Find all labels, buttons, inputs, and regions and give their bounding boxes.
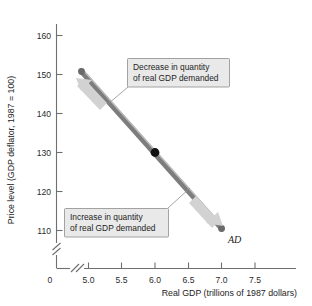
ad-curve-figure: 160 150 140 130 120 110 0 5.0 5.5 6.0 6.…: [0, 0, 312, 306]
y-tick-label-160: 160: [37, 31, 52, 41]
x-axis: [57, 264, 297, 272]
origin-label: 0: [48, 275, 53, 285]
increase-callout-line1: Increase in quantity: [70, 212, 143, 222]
arrow-down-right-icon: [189, 196, 223, 228]
ad-curve-bottom-endpoint: [218, 225, 225, 232]
y-axis-title: Price level (GDP deflator, 1987 = 100): [6, 76, 16, 224]
x-tick-label-5-5: 5.5: [116, 275, 128, 285]
x-axis-ticks: [89, 263, 256, 269]
ad-series-label: AD: [227, 234, 242, 245]
y-tick-label-120: 120: [37, 187, 52, 197]
y-tick-label-130: 130: [37, 148, 52, 158]
ad-curve-top-endpoint: [78, 68, 85, 75]
increase-callout-line2: of real GDP demanded: [70, 223, 156, 233]
y-axis-tick-labels: 160 150 140 130 120 110: [37, 31, 52, 236]
equilibrium-point: [151, 148, 160, 157]
x-tick-label-7-0: 7.0: [216, 275, 228, 285]
decrease-callout: Decrease in quantity of real GDP demande…: [108, 59, 230, 105]
x-tick-label-6-5: 6.5: [183, 275, 195, 285]
y-axis: [53, 24, 61, 268]
y-tick-label-150: 150: [37, 70, 52, 80]
decrease-callout-line2: of real GDP demanded: [133, 73, 219, 83]
y-tick-label-140: 140: [37, 109, 52, 119]
increase-callout-leader: [168, 188, 190, 208]
y-axis-break-icon: [53, 243, 61, 255]
decrease-callout-line1: Decrease in quantity: [133, 62, 210, 72]
x-axis-tick-labels: 0 5.0 5.5 6.0 6.5 7.0 7.5: [48, 275, 262, 285]
increase-callout: Increase in quantity of real GDP demande…: [65, 188, 191, 237]
x-tick-label-7-5: 7.5: [249, 275, 261, 285]
y-axis-ticks: [57, 36, 63, 231]
x-tick-label-5-0: 5.0: [83, 275, 95, 285]
x-axis-break-icon: [71, 264, 84, 272]
x-axis-title: Real GDP (trillions of 1987 dollars): [162, 288, 297, 298]
y-tick-label-110: 110: [37, 226, 51, 236]
decrease-callout-leader: [108, 87, 128, 104]
x-tick-label-6-0: 6.0: [149, 275, 161, 285]
